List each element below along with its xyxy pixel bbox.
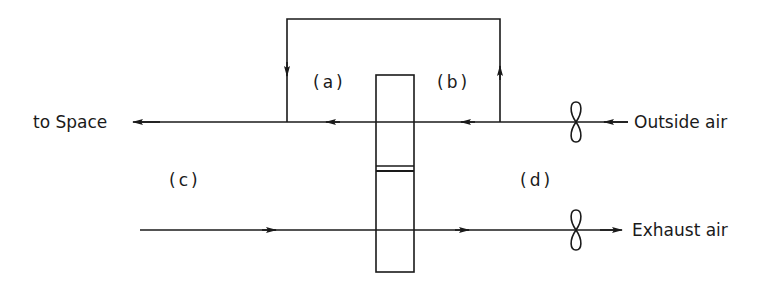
region-d-label: (d) bbox=[520, 172, 553, 189]
region-c-label: (c) bbox=[169, 172, 201, 189]
to-space-label: to Space bbox=[33, 114, 107, 131]
region-b-label: (b) bbox=[437, 74, 470, 91]
heat-wheel-diagram bbox=[0, 0, 770, 286]
exhaust-air-label: Exhaust air bbox=[632, 222, 728, 239]
heat-wheel bbox=[376, 75, 414, 272]
region-a-label: (a) bbox=[313, 74, 346, 91]
outside-air-label: Outside air bbox=[634, 114, 727, 131]
